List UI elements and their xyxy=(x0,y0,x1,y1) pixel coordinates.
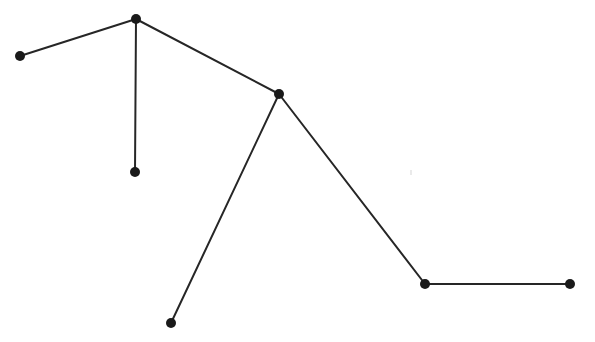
graph-node-c[interactable] xyxy=(130,167,140,177)
canvas-background xyxy=(0,0,595,342)
graph-node-d[interactable] xyxy=(274,89,284,99)
graph-node-b[interactable] xyxy=(131,14,141,24)
graph-edge-bc xyxy=(135,19,136,172)
diagram-canvas xyxy=(0,0,595,342)
graph-node-g[interactable] xyxy=(565,279,575,289)
artifact-layer xyxy=(410,170,412,175)
graph-node-a[interactable] xyxy=(15,51,25,61)
graph-node-f[interactable] xyxy=(420,279,430,289)
node-link-graph xyxy=(0,0,595,342)
scan-speck-artifact xyxy=(410,170,412,175)
graph-node-e[interactable] xyxy=(166,318,176,328)
